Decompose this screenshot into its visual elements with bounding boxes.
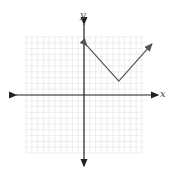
x-axis-label: x: [160, 88, 166, 99]
y-axis-label: y: [80, 9, 86, 20]
graph: [0, 0, 173, 169]
